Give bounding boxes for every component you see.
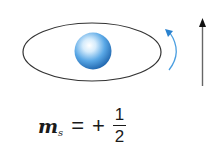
formula-sign: + <box>92 113 105 139</box>
electron-sphere <box>75 33 112 70</box>
spin-up-arrow-icon <box>199 18 206 86</box>
fraction-numerator: 1 <box>115 106 124 124</box>
spin-quantum-number-formula: m s = + 1 2 <box>38 104 126 148</box>
formula-variable: m <box>38 115 58 137</box>
formula-subscript: s <box>58 127 63 138</box>
formula-fraction: 1 2 <box>113 106 126 147</box>
fraction-denominator: 2 <box>115 128 124 146</box>
fraction-bar <box>113 125 126 127</box>
formula-equals: = <box>71 113 84 139</box>
rotation-arrow-icon <box>165 29 176 70</box>
